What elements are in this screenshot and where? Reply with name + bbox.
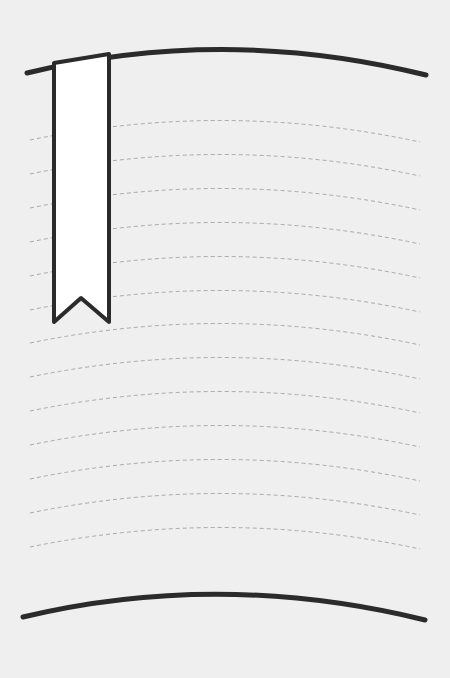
ruled-line [30,459,420,481]
notebook-page [0,0,450,678]
ruled-line [30,493,420,515]
notebook-illustration [0,0,450,678]
ruled-line [30,357,420,379]
bookmark-ribbon-icon [54,54,109,322]
ruled-line [30,527,420,549]
bottom-binding-curve [23,594,425,620]
ruled-line [30,323,420,345]
ruled-line [30,391,420,413]
ruled-line [30,425,420,447]
